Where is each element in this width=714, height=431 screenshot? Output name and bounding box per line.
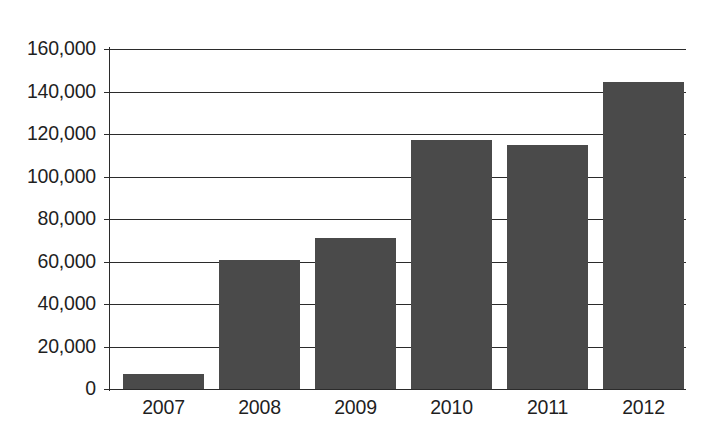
bar bbox=[219, 260, 300, 389]
x-tick-label: 2007 bbox=[123, 398, 204, 418]
bar-chart: 020,00040,00060,00080,000100,000120,0001… bbox=[0, 0, 714, 431]
y-tick-label: 140,000 bbox=[27, 82, 96, 102]
gridline bbox=[110, 177, 686, 178]
x-tick-label: 2008 bbox=[219, 398, 300, 418]
y-tick-mark bbox=[104, 262, 115, 263]
y-tick-label: 100,000 bbox=[27, 167, 96, 187]
plot-area bbox=[110, 49, 686, 389]
y-tick-mark bbox=[104, 389, 115, 390]
x-tick-label: 2009 bbox=[315, 398, 396, 418]
gridline bbox=[110, 134, 686, 135]
x-axis-line bbox=[110, 389, 686, 390]
y-tick-mark bbox=[104, 134, 115, 135]
bar bbox=[315, 238, 396, 389]
x-tick-label: 2012 bbox=[603, 398, 684, 418]
y-tick-label: 80,000 bbox=[38, 209, 96, 229]
bar bbox=[411, 140, 492, 389]
y-tick-label: 20,000 bbox=[38, 337, 96, 357]
y-tick-mark bbox=[104, 304, 115, 305]
gridline bbox=[110, 262, 686, 263]
y-tick-mark bbox=[104, 49, 115, 50]
gridline bbox=[110, 347, 686, 348]
y-tick-label: 60,000 bbox=[38, 252, 96, 272]
y-tick-label: 0 bbox=[85, 379, 96, 399]
gridline bbox=[110, 92, 686, 93]
bar bbox=[123, 374, 204, 389]
x-tick-label: 2011 bbox=[507, 398, 588, 418]
y-tick-label: 160,000 bbox=[27, 39, 96, 59]
y-tick-mark bbox=[104, 219, 115, 220]
gridline bbox=[110, 304, 686, 305]
bar bbox=[507, 145, 588, 389]
y-tick-mark bbox=[104, 92, 115, 93]
y-tick-label: 40,000 bbox=[38, 294, 96, 314]
y-tick-label: 120,000 bbox=[27, 124, 96, 144]
x-tick-label: 2010 bbox=[411, 398, 492, 418]
gridline bbox=[110, 49, 686, 50]
y-tick-mark bbox=[104, 347, 115, 348]
gridline bbox=[110, 219, 686, 220]
y-tick-mark bbox=[104, 177, 115, 178]
bar bbox=[603, 82, 684, 389]
